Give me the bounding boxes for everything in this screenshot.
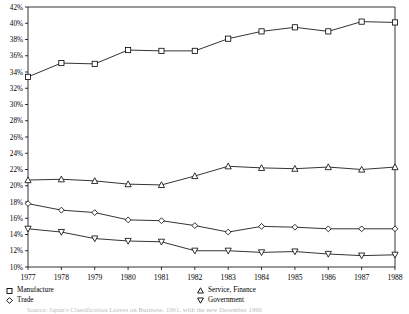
x-axis-tick-label: 1979 xyxy=(87,273,102,282)
data-point-marker xyxy=(259,29,264,34)
y-axis-tick-label: 14% xyxy=(10,231,23,239)
x-axis-tick-label: 1980 xyxy=(120,273,135,282)
y-axis-tick-label: 30% xyxy=(10,101,23,109)
data-point-marker xyxy=(392,20,397,25)
legend-label-service-finance: Service, Finance xyxy=(206,286,256,295)
y-axis-tick-label: 36% xyxy=(10,52,23,60)
diamond-marker-icon xyxy=(5,296,15,305)
data-point-marker xyxy=(92,210,98,216)
data-point-marker xyxy=(125,47,130,52)
chart-legend: Manufacture Trade Service, Finance xyxy=(0,286,409,306)
y-axis-tick-label: 12% xyxy=(10,247,23,255)
x-axis-tick-label: 1982 xyxy=(187,273,202,282)
series-government xyxy=(25,226,398,259)
data-point-marker xyxy=(359,19,364,24)
y-axis-tick-label: 16% xyxy=(10,215,23,223)
legend-item-trade: Trade xyxy=(5,296,54,305)
x-axis-tick-label: 1986 xyxy=(321,273,336,282)
data-point-marker xyxy=(159,218,165,224)
data-point-marker xyxy=(125,217,131,223)
data-point-marker xyxy=(225,229,231,235)
data-point-marker xyxy=(226,36,231,41)
chart-figure: 10%12%14%16%18%20%22%24%26%28%30%32%34%3… xyxy=(0,0,409,314)
data-point-marker xyxy=(58,207,64,213)
x-axis-tick-label: 1978 xyxy=(54,273,69,282)
x-axis-tick-label: 1984 xyxy=(254,273,269,282)
data-point-marker xyxy=(326,29,331,34)
legend-label-trade: Trade xyxy=(15,296,34,305)
y-axis-tick-label: 18% xyxy=(10,199,23,207)
source-note: Source: Japan's Classification Leaves on… xyxy=(27,306,262,313)
data-point-marker xyxy=(259,223,265,229)
y-axis-tick-label: 10% xyxy=(10,264,23,272)
triangle-down-marker-icon xyxy=(196,296,206,305)
data-point-marker xyxy=(292,25,297,30)
x-axis-tick-label: 1981 xyxy=(154,273,169,282)
triangle-up-marker-icon xyxy=(196,286,206,295)
data-point-marker xyxy=(392,164,398,170)
x-axis-tick-label: 1983 xyxy=(221,273,236,282)
y-axis-tick-label: 38% xyxy=(10,36,23,44)
data-point-marker xyxy=(59,60,64,65)
data-point-marker xyxy=(325,164,331,170)
x-axis-tick-label: 1987 xyxy=(354,273,369,282)
data-point-marker xyxy=(159,48,164,53)
y-axis-tick-label: 42% xyxy=(10,4,23,12)
series-manufacture xyxy=(25,19,397,79)
data-point-marker xyxy=(192,223,198,229)
legend-item-manufacture: Manufacture xyxy=(5,286,54,295)
line-chart-plot: 10%12%14%16%18%20%22%24%26%28%30%32%34%3… xyxy=(0,0,409,286)
legend-column-right: Service, Finance Government xyxy=(196,286,256,306)
y-axis-tick-label: 24% xyxy=(10,150,23,158)
data-point-marker xyxy=(359,226,365,232)
data-point-marker xyxy=(292,224,298,230)
square-marker-icon xyxy=(5,286,15,295)
legend-column-left: Manufacture Trade xyxy=(5,286,54,306)
legend-item-government: Government xyxy=(196,296,256,305)
y-axis-tick-label: 34% xyxy=(10,69,23,77)
x-axis-tick-label: 1977 xyxy=(20,273,35,282)
data-point-marker xyxy=(25,74,30,79)
data-point-marker xyxy=(192,48,197,53)
data-point-marker xyxy=(392,226,398,232)
x-axis-tick-label: 1985 xyxy=(287,273,302,282)
y-axis-tick-label: 32% xyxy=(10,85,23,93)
y-axis-tick-label: 22% xyxy=(10,166,23,174)
legend-label-government: Government xyxy=(206,296,244,305)
data-point-marker xyxy=(25,201,31,207)
y-axis-tick-label: 26% xyxy=(10,134,23,142)
y-axis-tick-label: 20% xyxy=(10,182,23,190)
data-point-marker xyxy=(225,163,231,169)
series-service-finance xyxy=(25,163,398,187)
y-axis-tick-label: 28% xyxy=(10,117,23,125)
data-point-marker xyxy=(92,61,97,66)
y-axis-tick-label: 40% xyxy=(10,20,23,28)
data-point-marker xyxy=(325,226,331,232)
legend-label-manufacture: Manufacture xyxy=(15,286,54,295)
x-axis-tick-label: 1988 xyxy=(387,273,402,282)
legend-item-service-finance: Service, Finance xyxy=(196,286,256,295)
series-trade xyxy=(25,201,398,235)
